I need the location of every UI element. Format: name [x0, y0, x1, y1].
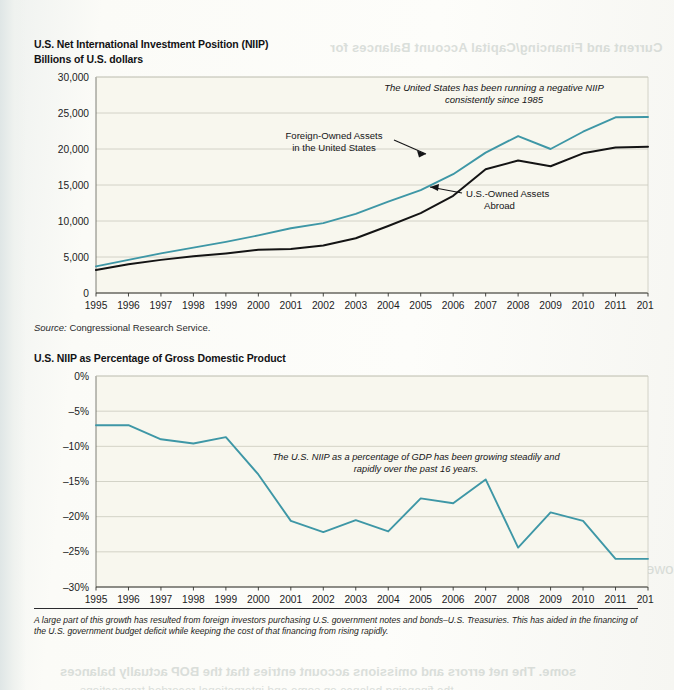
svg-text:The United States has been run: The United States has been running a neg… — [384, 82, 604, 93]
svg-text:2004: 2004 — [377, 300, 400, 311]
svg-text:2011: 2011 — [605, 300, 627, 311]
svg-text:–30%: –30% — [63, 582, 89, 593]
svg-text:30,000: 30,000 — [58, 72, 89, 83]
svg-text:2006: 2006 — [442, 594, 465, 605]
svg-text:2003: 2003 — [344, 300, 367, 311]
figure-footnote: A large part of this growth has resulted… — [34, 608, 638, 638]
svg-text:1999: 1999 — [215, 594, 238, 605]
svg-text:1997: 1997 — [150, 300, 173, 311]
figure-sheet: U.S. Net International Investment Positi… — [0, 0, 674, 690]
svg-text:2008: 2008 — [507, 594, 530, 605]
svg-text:2000: 2000 — [247, 300, 270, 311]
svg-text:2001: 2001 — [279, 300, 302, 311]
svg-text:The U.S. NIIP as a percentage: The U.S. NIIP as a percentage of GDP has… — [272, 452, 560, 462]
svg-text:2012: 2012 — [637, 594, 654, 605]
svg-text:2005: 2005 — [409, 300, 432, 311]
svg-text:5,000: 5,000 — [64, 252, 90, 263]
svg-text:2005: 2005 — [409, 594, 432, 605]
svg-text:0%: 0% — [74, 371, 89, 382]
svg-text:1998: 1998 — [182, 300, 205, 311]
svg-text:1996: 1996 — [117, 594, 140, 605]
figure1-title: U.S. Net International Investment Positi… — [34, 38, 654, 51]
svg-text:2004: 2004 — [377, 594, 400, 605]
svg-text:2010: 2010 — [572, 300, 595, 311]
gdp-growth-note: rapidly over the past 16 years. — [354, 464, 479, 474]
svg-text:1999: 1999 — [215, 300, 238, 311]
svg-text:–15%: –15% — [63, 476, 89, 487]
svg-text:1995: 1995 — [85, 300, 108, 311]
svg-text:2008: 2008 — [507, 300, 530, 311]
svg-text:2010: 2010 — [572, 594, 595, 605]
svg-text:2007: 2007 — [474, 594, 497, 605]
source-value: Congressional Research Service. — [69, 322, 210, 333]
figure1-source: Source: Congressional Research Service. — [34, 322, 654, 333]
svg-text:1998: 1998 — [182, 594, 205, 605]
svg-text:10,000: 10,000 — [58, 216, 89, 227]
svg-text:2012: 2012 — [637, 300, 654, 311]
svg-text:1995: 1995 — [85, 594, 108, 605]
svg-text:U.S.-Owned Assets: U.S.-Owned Assets — [466, 188, 549, 199]
svg-text:in the United States: in the United States — [292, 142, 376, 153]
svg-text:2002: 2002 — [312, 594, 335, 605]
svg-text:2007: 2007 — [474, 300, 497, 311]
svg-text:1997: 1997 — [150, 594, 173, 605]
figure2-plot: 0%–5%–10%–15%–20%–25%–30%199519961997199… — [34, 368, 654, 613]
figure-niip-gdp: U.S. NIIP as Percentage of Gross Domesti… — [34, 352, 654, 613]
svg-text:2009: 2009 — [539, 594, 562, 605]
svg-text:1996: 1996 — [117, 300, 140, 311]
svg-text:2006: 2006 — [442, 300, 465, 311]
figure2-svg: 0%–5%–10%–15%–20%–25%–30%199519961997199… — [34, 368, 654, 613]
svg-text:–20%: –20% — [63, 511, 89, 522]
svg-text:–10%: –10% — [63, 441, 89, 452]
svg-text:2002: 2002 — [312, 300, 335, 311]
svg-text:–5%: –5% — [69, 406, 89, 417]
svg-text:0: 0 — [83, 288, 89, 299]
svg-text:2001: 2001 — [279, 594, 302, 605]
svg-text:Foreign-Owned Assets: Foreign-Owned Assets — [285, 130, 382, 141]
svg-text:15,000: 15,000 — [58, 180, 89, 191]
svg-text:2000: 2000 — [247, 594, 270, 605]
figure1-plot: 05,00010,00015,00020,00025,00030,0001995… — [34, 69, 654, 319]
svg-text:25,000: 25,000 — [58, 108, 89, 119]
svg-text:Abroad: Abroad — [484, 200, 515, 211]
figure1-subtitle: Billions of U.S. dollars — [34, 53, 654, 66]
svg-text:20,000: 20,000 — [58, 144, 89, 155]
figure-niip-levels: U.S. Net International Investment Positi… — [34, 38, 654, 333]
svg-text:2003: 2003 — [344, 594, 367, 605]
svg-text:2011: 2011 — [605, 594, 627, 605]
source-label: Source: — [34, 322, 67, 333]
figure2-title: U.S. NIIP as Percentage of Gross Domesti… — [34, 352, 654, 365]
negative-niip-note: consistently since 1985 — [445, 94, 544, 105]
svg-text:2009: 2009 — [539, 300, 562, 311]
svg-text:–25%: –25% — [63, 546, 89, 557]
figure1-svg: 05,00010,00015,00020,00025,00030,0001995… — [34, 69, 654, 319]
